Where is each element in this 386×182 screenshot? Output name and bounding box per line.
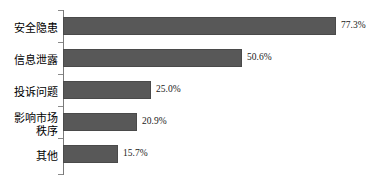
category-label-1: 信息泄露 [0, 54, 58, 67]
bar-safety-hazard [63, 17, 336, 35]
bar-row: 25.0% [63, 74, 363, 106]
horizontal-bar-chart: 安全隐患 信息泄露 投诉问题 影响市场 秩序 其他 77.3% 50.6% [0, 0, 386, 182]
bar-value-label: 77.3% [341, 18, 366, 32]
category-label-line: 秩序 [0, 125, 58, 138]
category-label-line: 安全隐患 [0, 22, 58, 35]
bar-row: 77.3% [63, 10, 363, 42]
bar-value-label: 15.7% [123, 146, 148, 160]
bar-value-label: 50.6% [247, 50, 272, 64]
category-label-line: 影响市场 [0, 112, 58, 125]
category-label-4: 其他 [0, 150, 58, 163]
category-label-2: 投诉问题 [0, 86, 58, 99]
bar-complaint-issue [63, 81, 151, 99]
plot-area: 77.3% 50.6% 25.0% 20.9% 15.7% [63, 10, 363, 175]
category-label-line: 其他 [0, 150, 58, 163]
bar-value-label: 25.0% [156, 82, 181, 96]
category-label-line: 投诉问题 [0, 86, 58, 99]
bar-row: 15.7% [63, 138, 363, 170]
bar-market-order-impact [63, 113, 137, 131]
category-label-3: 影响市场 秩序 [0, 112, 58, 137]
category-label-0: 安全隐患 [0, 22, 58, 35]
category-labels: 安全隐患 信息泄露 投诉问题 影响市场 秩序 其他 [0, 10, 58, 175]
category-label-line: 信息泄露 [0, 54, 58, 67]
bar-information-leak [63, 49, 242, 67]
bar-row: 20.9% [63, 106, 363, 138]
bar-row: 50.6% [63, 42, 363, 74]
bar-other [63, 145, 118, 163]
bar-value-label: 20.9% [142, 114, 167, 128]
